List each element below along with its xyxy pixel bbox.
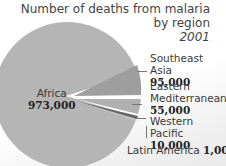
label-africa: Africa 973,000	[28, 87, 76, 111]
label-latin-america: Latin America 1,000	[127, 144, 226, 156]
label-sea-name: Southeast Asia	[150, 52, 226, 76]
label-emed-name2: Mediterranean	[150, 92, 226, 104]
label-la-value: 1,000	[203, 144, 226, 156]
label-wp-name: Western Pacific	[150, 115, 226, 139]
leader-line-emed	[132, 104, 142, 105]
label-africa-name: Africa	[28, 87, 76, 99]
label-africa-value: 973,000	[28, 99, 76, 111]
label-la-name: Latin America	[127, 144, 200, 156]
leader-line-sea	[137, 71, 147, 72]
label-eastern-mediterranean: Eastern Mediterranean 55,000	[150, 80, 226, 116]
label-emed-name1: Eastern	[150, 80, 226, 92]
leader-line-wp	[136, 118, 146, 119]
leader-line-la	[146, 126, 147, 138]
